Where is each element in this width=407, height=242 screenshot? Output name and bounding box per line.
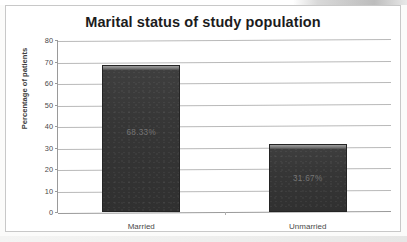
y-tick-mark (55, 105, 58, 106)
bar-unmarried[interactable]: 31.67% (269, 144, 347, 212)
gridline (58, 39, 391, 42)
y-tick-mark (55, 148, 58, 149)
y-tick-label: 80 (45, 36, 53, 45)
y-tick-mark (55, 191, 58, 192)
y-tick-label: 20 (45, 165, 53, 174)
x-category-label: Unmarried (289, 222, 326, 231)
scanned-page-background: Marital status of study population Perce… (0, 0, 407, 242)
gridline (58, 60, 391, 63)
y-tick-label: 70 (45, 57, 53, 66)
bar-married[interactable]: 68.33% (102, 65, 180, 212)
x-axis-center-tick (225, 212, 226, 215)
y-tick-label: 40 (45, 122, 53, 131)
chart-title: Marital status of study population (6, 14, 400, 30)
y-axis-title: Percentage of patients (20, 29, 29, 149)
y-tick-mark (55, 212, 58, 213)
y-tick-label: 60 (45, 79, 53, 88)
y-tick-label: 50 (45, 100, 53, 109)
x-category-label: Married (128, 222, 155, 231)
y-tick-label: 30 (45, 143, 53, 152)
bar-value-label: 68.33% (103, 128, 179, 137)
plot-area: 01020304050607080 68.33%31.67% MarriedUn… (58, 40, 391, 212)
y-tick-mark (55, 40, 58, 41)
y-tick-mark (55, 169, 58, 170)
y-tick-label: 0 (49, 208, 53, 217)
y-tick-mark (55, 62, 58, 63)
chart-frame: Marital status of study population Perce… (5, 5, 401, 232)
scan-artifact-bottom (0, 236, 407, 242)
bar-value-label: 31.67% (270, 174, 346, 183)
y-tick-mark (55, 83, 58, 84)
y-tick-mark (55, 126, 58, 127)
y-tick-label: 10 (45, 186, 53, 195)
bar-top-highlight (103, 66, 179, 70)
bar-top-highlight (270, 145, 346, 149)
